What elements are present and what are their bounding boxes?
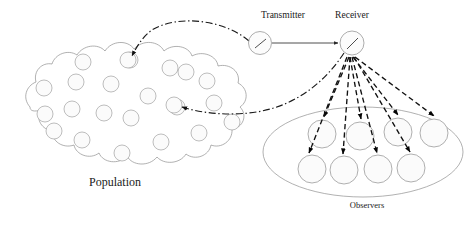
population-member [103,76,119,92]
receiver-node[interactable] [340,31,364,55]
receiver-label: Receiver [335,10,370,20]
population-member [162,60,178,76]
transmitter-label: Transmitter [261,10,306,20]
observer-member [420,119,448,147]
transmitter-circle[interactable] [249,32,272,55]
population-member [206,95,222,111]
observers-label: Observers [350,200,384,210]
population-member [37,106,53,122]
diagram-canvas: Transmitter Receiver Population Observer… [0,0,468,225]
diagram-svg: Transmitter Receiver Population Observer… [0,0,468,225]
population-member [224,114,240,130]
observer-member [298,155,326,183]
population-member [199,73,215,89]
population-member [123,110,139,126]
population-member [114,145,130,161]
population-member [140,88,156,104]
transmitter-node[interactable] [249,32,272,55]
population-member [36,80,52,96]
population-member [64,101,80,117]
observer-member [397,154,425,182]
population-member [96,105,112,121]
observer-member [364,155,392,183]
population-member [74,132,90,148]
population-member [46,123,62,139]
population-member [68,74,84,90]
population-label: Population [89,175,141,189]
population-member [178,64,194,80]
population-member [191,125,207,141]
observers-group [263,107,463,197]
observer-member [330,156,358,184]
population-member [75,54,91,70]
population-group [26,42,246,164]
receiver-circle[interactable] [340,31,364,55]
population-member-sampled-2 [166,97,182,113]
population-member [153,134,169,150]
population-member-sampled-1 [120,52,136,68]
